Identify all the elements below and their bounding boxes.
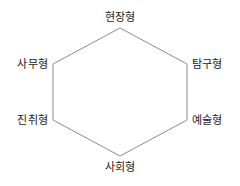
vertex-label-top: 현장형 (0, 11, 240, 24)
hexagon-diagram: 현장형 탐구형 예술형 사회형 진취형 사무형 (0, 0, 240, 186)
hexagon-outline (53, 28, 187, 156)
vertex-label-bottom: 사회형 (0, 161, 240, 174)
hexagon-shape (0, 0, 240, 186)
vertex-label-right-bottom: 예술형 (192, 114, 240, 127)
vertex-label-right-top: 탐구형 (192, 58, 240, 71)
vertex-label-left-bottom: 진취형 (0, 114, 48, 127)
vertex-label-left-top: 사무형 (0, 58, 48, 71)
